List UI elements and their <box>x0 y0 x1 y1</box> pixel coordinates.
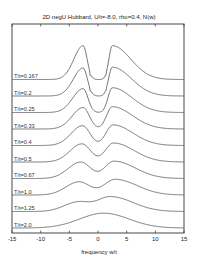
x-axis-label: frequency w/t <box>81 249 117 255</box>
series-line <box>12 67 184 96</box>
x-tick-label: 5 <box>125 236 129 242</box>
x-tick-label: 15 <box>181 236 188 242</box>
series-line <box>12 161 184 178</box>
curve-label: T/t=0.33 <box>14 123 35 129</box>
series-line <box>12 46 184 80</box>
curve-label: T/t=0.4 <box>14 139 32 145</box>
chart: 2D negU Hubbard, U/t=-8.0, rho=0.4, N(w)… <box>0 0 198 261</box>
curve-label: T/t=0.25 <box>14 106 35 112</box>
curve-label: T/t=0.67 <box>14 172 35 178</box>
axes-frame <box>12 24 184 233</box>
curve-label: T/t=2.0 <box>14 222 32 228</box>
series-line <box>12 213 184 228</box>
x-tick-label: 10 <box>152 236 159 242</box>
series-line <box>12 197 184 212</box>
curve-label: T/t=1.25 <box>14 205 35 211</box>
series-line <box>12 107 184 129</box>
curve-label: T/t=0.5 <box>14 156 32 162</box>
x-tick-label: 0 <box>96 236 100 242</box>
x-ticks-group: -15-10-5051015 <box>8 24 188 242</box>
x-tick-label: -15 <box>8 236 17 242</box>
curve-label: T/t=0.2 <box>14 90 32 96</box>
curves-group <box>12 46 184 228</box>
series-line <box>12 125 184 146</box>
curve-label: T/t=1.0 <box>14 189 32 195</box>
series-line <box>12 88 184 113</box>
x-tick-label: -10 <box>36 236 45 242</box>
x-tick-label: -5 <box>67 236 73 242</box>
chart-title: 2D negU Hubbard, U/t=-8.0, rho=0.4, N(w) <box>42 14 155 20</box>
series-line <box>12 179 184 195</box>
curve-label: T/t=0.167 <box>14 73 38 79</box>
